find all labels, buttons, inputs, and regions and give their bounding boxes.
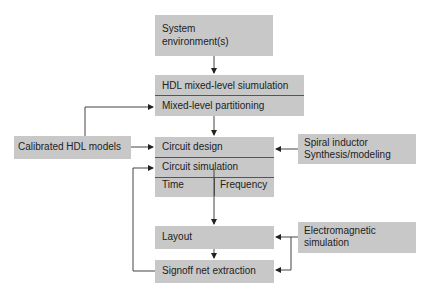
flow-diagram: System environment(s) HDL mixed-level si… [0, 0, 426, 293]
connector-arrows [0, 0, 426, 293]
